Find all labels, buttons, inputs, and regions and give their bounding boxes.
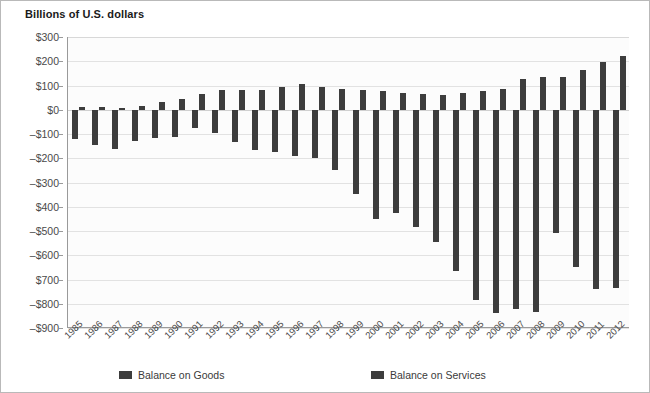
bar-services	[540, 77, 546, 109]
bar-services	[600, 62, 606, 110]
bar-services	[319, 87, 325, 109]
bar-services	[179, 99, 185, 110]
bar-group	[309, 37, 329, 327]
bar-goods	[493, 110, 499, 313]
bar-goods	[353, 110, 359, 194]
bar-services	[360, 90, 366, 110]
bar-services	[580, 70, 586, 110]
bar-goods	[192, 110, 198, 129]
y-axis-tick-label: –$800	[30, 298, 59, 310]
bar-group	[389, 37, 409, 327]
bar-goods	[413, 110, 419, 227]
bar-services	[339, 89, 345, 109]
bar-services	[159, 102, 165, 110]
legend-swatch-goods	[119, 371, 132, 379]
bar-group	[269, 37, 289, 327]
bar-group	[188, 37, 208, 327]
bar-goods	[513, 110, 519, 309]
bar-services	[440, 95, 446, 110]
y-axis-tick-mark	[59, 86, 63, 87]
y-axis-tick-label: –$600	[30, 249, 59, 261]
bar-goods	[132, 110, 138, 141]
y-axis-tick-label: $400	[36, 201, 59, 213]
bar-group	[610, 37, 630, 327]
y-axis-tick-mark	[59, 207, 63, 208]
bar-goods	[252, 110, 258, 150]
bar-goods	[152, 110, 158, 138]
y-axis: $300$200$100$0–$100–$200–$300$400–$500–$…	[1, 37, 63, 328]
bar-goods	[373, 110, 379, 220]
y-axis-tick-mark	[59, 304, 63, 305]
legend-item-goods: Balance on Goods	[119, 369, 224, 381]
bar-services	[119, 108, 125, 110]
bar-services	[380, 91, 386, 110]
bar-goods	[553, 110, 559, 234]
bar-goods	[172, 110, 178, 137]
bar-group	[530, 37, 550, 327]
bar-goods	[433, 110, 439, 243]
bar-group	[570, 37, 590, 327]
y-axis-tick-label: –$500	[30, 225, 59, 237]
bar-group	[349, 37, 369, 327]
y-axis-tick-label: $700	[36, 274, 59, 286]
y-axis-tick-label: –$300	[30, 177, 59, 189]
legend-label-goods: Balance on Goods	[138, 369, 224, 381]
bar-goods	[292, 110, 298, 156]
bar-group	[68, 37, 88, 327]
bar-services	[139, 106, 145, 110]
bar-goods	[573, 110, 579, 267]
bar-services	[420, 94, 426, 110]
bar-services	[279, 87, 285, 110]
bar-services	[620, 56, 626, 109]
chart-frame: Billions of U.S. dollars $300$200$100$0–…	[0, 0, 650, 393]
legend-label-services: Balance on Services	[390, 369, 486, 381]
bar-goods	[92, 110, 98, 145]
bar-group	[469, 37, 489, 327]
y-axis-tick-mark	[59, 134, 63, 135]
chart-legend: Balance on Goods Balance on Services	[1, 369, 650, 391]
y-axis-tick-mark	[59, 280, 63, 281]
bar-services	[259, 90, 265, 109]
bar-goods	[533, 110, 539, 312]
bar-group	[329, 37, 349, 327]
bar-services	[79, 107, 85, 110]
bar-group	[369, 37, 389, 327]
bar-goods	[232, 110, 238, 142]
bar-group	[88, 37, 108, 327]
bar-services	[99, 107, 105, 109]
bar-group	[490, 37, 510, 327]
bar-goods	[613, 110, 619, 288]
bar-group	[510, 37, 530, 327]
bar-group	[229, 37, 249, 327]
y-axis-tick-mark	[59, 183, 63, 184]
y-axis-tick-mark	[59, 231, 63, 232]
bar-goods	[212, 110, 218, 134]
bar-goods	[112, 110, 118, 149]
bar-group	[449, 37, 469, 327]
bar-services	[480, 91, 486, 110]
y-axis-tick-label: $0	[47, 104, 59, 116]
y-axis-tick-mark	[59, 158, 63, 159]
y-axis-tick-mark	[59, 328, 63, 329]
bar-goods	[312, 110, 318, 158]
plot-area	[67, 37, 629, 328]
bar-goods	[393, 110, 399, 214]
y-axis-tick-label: –$900	[30, 322, 59, 334]
y-axis-tick-mark	[59, 110, 63, 111]
bar-goods	[593, 110, 599, 290]
legend-item-services: Balance on Services	[371, 369, 486, 381]
plot-wrapper	[67, 37, 629, 328]
bar-group	[409, 37, 429, 327]
bar-goods	[332, 110, 338, 170]
bar-services	[560, 77, 566, 109]
bar-goods	[72, 110, 78, 140]
bar-group	[128, 37, 148, 327]
bar-group	[108, 37, 128, 327]
bar-services	[199, 94, 205, 110]
bar-group	[168, 37, 188, 327]
bar-group	[429, 37, 449, 327]
bar-services	[299, 84, 305, 109]
bar-group	[590, 37, 610, 327]
bar-services	[400, 93, 406, 109]
bar-services	[460, 93, 466, 110]
